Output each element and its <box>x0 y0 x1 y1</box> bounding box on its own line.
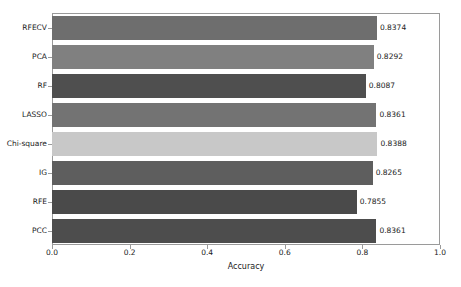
bar-row: 0.8388 <box>52 132 407 156</box>
y-tick-mark <box>48 144 52 145</box>
x-tick-label-0-6: 0.6 <box>279 249 291 257</box>
y-tick-mark <box>48 115 52 116</box>
bar-value-label: 0.8361 <box>379 227 405 235</box>
bar-value-label: 0.7855 <box>360 198 386 206</box>
y-tick-label-pca: PCA <box>0 53 47 61</box>
bar-chi-square <box>52 132 377 156</box>
x-tick-label-0-8: 0.8 <box>356 249 368 257</box>
y-tick-mark <box>48 231 52 232</box>
y-tick-mark <box>48 173 52 174</box>
y-tick-label-rfe: RFE <box>0 198 47 206</box>
y-tick-label-rf: RF <box>0 82 47 90</box>
bar-rfecv <box>52 16 377 40</box>
bar-value-label: 0.8374 <box>380 24 406 32</box>
y-tick-label-rfecv: RFECV <box>0 24 47 32</box>
bar-rf <box>52 74 366 98</box>
y-tick-mark <box>48 86 52 87</box>
bar-row: 0.8361 <box>52 103 406 127</box>
bar-ig <box>52 161 373 185</box>
bar-value-label: 0.8361 <box>379 111 405 119</box>
bar-value-label: 0.8087 <box>369 82 395 90</box>
y-tick-label-ig: IG <box>0 169 47 177</box>
bar-value-label: 0.8388 <box>380 140 406 148</box>
bar-row: 0.8265 <box>52 161 402 185</box>
bar-row: 0.8292 <box>52 45 403 69</box>
x-tick-label-0-2: 0.2 <box>124 249 136 257</box>
x-tick-label-0-4: 0.4 <box>201 249 213 257</box>
y-tick-mark <box>48 57 52 58</box>
bar-value-label: 0.8292 <box>377 53 403 61</box>
y-tick-label-chi-square: Chi-square <box>0 140 47 148</box>
x-tick-label-1-0: 1.0 <box>434 249 446 257</box>
bar-lasso <box>52 103 376 127</box>
bar-value-label: 0.8265 <box>376 169 402 177</box>
bar-rfe <box>52 190 357 214</box>
x-axis-label: Accuracy <box>52 263 440 271</box>
bar-pca <box>52 45 374 69</box>
y-tick-label-lasso: LASSO <box>0 111 47 119</box>
bar-row: 0.8087 <box>52 74 395 98</box>
y-tick-mark <box>48 28 52 29</box>
bar-chart-figure: 0.83740.82920.80870.83610.83880.82650.78… <box>0 0 461 287</box>
y-tick-label-pcc: PCC <box>0 227 47 235</box>
bar-row: 0.7855 <box>52 190 386 214</box>
bar-row: 0.8361 <box>52 219 406 243</box>
bar-row: 0.8374 <box>52 16 406 40</box>
bar-pcc <box>52 219 376 243</box>
y-tick-mark <box>48 202 52 203</box>
x-tick-label-0-0: 0.0 <box>46 249 58 257</box>
